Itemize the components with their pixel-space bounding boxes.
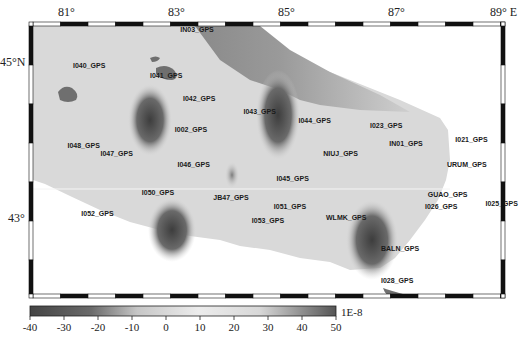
- frame-corner: [501, 294, 505, 298]
- frame-segment-top: [61, 22, 89, 26]
- frame-segment-bottom: [418, 294, 446, 298]
- colorbar-tick-label: 50: [331, 321, 343, 333]
- colorbar-unit: 1E-8: [341, 306, 363, 318]
- frame-segment-top: [171, 22, 199, 26]
- low-anomaly-i002: [128, 84, 172, 156]
- low-anomaly-jb47: [148, 198, 196, 262]
- station-label: I026_GPS: [425, 203, 458, 210]
- colorbar-ramp: [30, 306, 336, 316]
- station-label: I048_GPS: [68, 142, 101, 149]
- station-label: I028_GPS: [381, 277, 414, 284]
- colorbar: -40-30-20-1001020304050 1E-8: [23, 306, 363, 333]
- frame-segment-bottom: [308, 294, 336, 298]
- lat-tick-45: 45°N: [0, 55, 26, 69]
- frame-segment-left: [29, 182, 33, 221]
- station-label: I046_GPS: [178, 161, 211, 168]
- frame-corner: [29, 22, 33, 26]
- station-label: WLMK_GPS: [326, 214, 367, 221]
- station-label: I050_GPS: [142, 189, 175, 196]
- latitude-labels: 45°N 43°: [0, 55, 26, 225]
- station-label: JB47_GPS: [213, 194, 249, 201]
- station-label: I052_GPS: [81, 210, 114, 217]
- station-label: I045_GPS: [277, 175, 310, 182]
- lon-tick-85: 85°: [278, 5, 295, 19]
- frame-segment-right: [501, 65, 505, 104]
- station-label: I040_GPS: [73, 62, 106, 69]
- frame-segment-bottom: [391, 294, 419, 298]
- frame-segment-bottom: [171, 294, 199, 298]
- frame-segment-bottom: [281, 294, 309, 298]
- lon-tick-87: 87°: [388, 5, 405, 19]
- frame-segment-top: [143, 22, 171, 26]
- frame-segment-right: [501, 260, 505, 294]
- frame-segment-top: [446, 22, 474, 26]
- frame-segment-top: [116, 22, 144, 26]
- frame-segment-left: [29, 65, 33, 104]
- low-anomaly-i044: [256, 70, 300, 160]
- station-label: I053_GPS: [252, 217, 285, 224]
- station-label: I023_GPS: [370, 122, 403, 129]
- station-label: URUM_GPS: [447, 161, 487, 168]
- colorbar-tick-label: 30: [263, 321, 275, 333]
- lon-tick-89: 89° E: [490, 5, 517, 19]
- frame-segment-top: [281, 22, 309, 26]
- frame-segment-top: [226, 22, 254, 26]
- colorbar-tick-label: -10: [125, 321, 140, 333]
- station-label: I047_GPS: [101, 150, 134, 157]
- frame-segment-bottom: [61, 294, 89, 298]
- strain-rate-map: 81° 83° 85° 87° 89° E 45°N 43° IN03_GPSI…: [0, 0, 523, 345]
- frame-segment-left: [29, 143, 33, 182]
- colorbar-tick-label: 10: [195, 321, 207, 333]
- colorbar-tick-label: -40: [23, 321, 38, 333]
- station-label: I041_GPS: [150, 72, 183, 79]
- lon-tick-83: 83°: [168, 5, 185, 19]
- frame-segment-top: [33, 22, 61, 26]
- frame-segment-bottom: [446, 294, 474, 298]
- frame-segment-right: [501, 26, 505, 65]
- frame-segment-top: [391, 22, 419, 26]
- station-label: GUAO_GPS: [428, 191, 468, 198]
- frame-segment-top: [198, 22, 226, 26]
- low-anomaly-i045: [225, 162, 239, 188]
- frame-segment-left: [29, 104, 33, 143]
- colorbar-tick-label: 20: [229, 321, 241, 333]
- station-label: I002_GPS: [175, 126, 208, 133]
- station-label: NIUJ_GPS: [323, 150, 358, 157]
- frame-segment-left: [29, 260, 33, 294]
- station-label: I051_GPS: [274, 203, 307, 210]
- frame-segment-bottom: [253, 294, 281, 298]
- frame-segment-bottom: [336, 294, 364, 298]
- frame-segment-right: [501, 104, 505, 143]
- frame-segment-top: [473, 22, 501, 26]
- low-anomaly-baln: [346, 200, 398, 280]
- colorbar-tick-label: -30: [57, 321, 72, 333]
- frame-segment-top: [418, 22, 446, 26]
- station-label: I021_GPS: [455, 136, 488, 143]
- frame-segment-bottom: [198, 294, 226, 298]
- frame-segment-left: [29, 26, 33, 65]
- lon-tick-81: 81°: [58, 5, 75, 19]
- frame-segment-bottom: [226, 294, 254, 298]
- colorbar-tick-label: -20: [91, 321, 106, 333]
- station-label: I043_GPS: [244, 108, 277, 115]
- frame-segment-right: [501, 143, 505, 182]
- frame-segment-bottom: [88, 294, 116, 298]
- frame-segment-top: [336, 22, 364, 26]
- colorbar-ticks: -40-30-20-1001020304050: [23, 316, 342, 333]
- frame-segment-top: [363, 22, 391, 26]
- frame-corner: [501, 22, 505, 26]
- frame-corner: [29, 294, 33, 298]
- frame-segment-left: [29, 221, 33, 260]
- colorbar-tick-label: 40: [297, 321, 309, 333]
- frame-segment-bottom: [473, 294, 501, 298]
- station-label: I044_GPS: [299, 117, 332, 124]
- frame-segment-right: [501, 221, 505, 260]
- longitude-labels: 81° 83° 85° 87° 89° E: [58, 5, 517, 19]
- colorbar-tick-label: 0: [163, 321, 169, 333]
- frame-segment-top: [88, 22, 116, 26]
- frame-segment-bottom: [33, 294, 61, 298]
- station-label: I042_GPS: [183, 95, 216, 102]
- frame-segment-bottom: [116, 294, 144, 298]
- frame-segment-bottom: [363, 294, 391, 298]
- station-label: I025_GPS: [486, 200, 519, 207]
